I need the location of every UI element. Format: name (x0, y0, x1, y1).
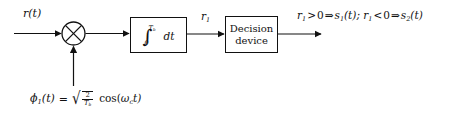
square-root-expression: √ 2 Tb (72, 90, 93, 108)
decision-device-line2: device (235, 35, 268, 47)
decision-device-line1: Decision (230, 23, 274, 35)
integral-expression: ∫ Tb 0 dt (143, 27, 175, 46)
fraction-numerator: 2 (83, 92, 91, 99)
phi-symbol: ϕ1(t) (30, 93, 55, 106)
cosine-term: cos(ωct) (99, 93, 141, 105)
integral-differential: dt (163, 30, 174, 42)
block-diagram-canvas: r(t) ∫ Tb 0 dt r1 Decision device r1>0⇒s… (0, 0, 455, 117)
equals-sign: = (59, 94, 68, 105)
radical-sign: √ (72, 90, 81, 108)
integral-upper-limit: Tb (149, 25, 156, 32)
decision-rule-label: r1>0⇒s1(t); r1<0⇒s2(t) (297, 10, 423, 22)
input-signal-label: r(t) (23, 8, 41, 19)
fraction-denominator: Tb (82, 99, 93, 108)
integrator-output-label: r1 (201, 11, 210, 23)
integral-sign: ∫ Tb 0 (143, 27, 153, 46)
integrator-block[interactable]: ∫ Tb 0 dt (130, 17, 187, 53)
decision-device-block[interactable]: Decision device (225, 16, 278, 53)
carrier-reference-label: ϕ1(t) = √ 2 Tb cos(ωct) (30, 90, 141, 108)
integral-lower-limit: 0 (145, 40, 149, 47)
fraction: 2 Tb (82, 91, 93, 108)
